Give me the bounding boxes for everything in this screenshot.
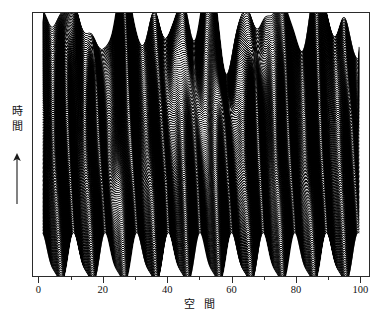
x-tick-minor bbox=[71, 277, 72, 280]
y-axis: 時 間 bbox=[4, 12, 30, 277]
x-tick-major bbox=[232, 277, 233, 283]
y-axis-title-char-2: 間 bbox=[4, 119, 30, 134]
x-tick-minor bbox=[135, 277, 136, 280]
x-tick-minor bbox=[264, 277, 265, 280]
y-axis-up-arrow-icon bbox=[4, 152, 30, 204]
waterfall-figure: 020406080100 空 間 時 間 bbox=[0, 0, 386, 315]
x-axis-title: 空 間 bbox=[32, 295, 370, 311]
x-tick-minor bbox=[328, 277, 329, 280]
y-axis-title: 時 間 bbox=[4, 104, 30, 134]
x-tick-major bbox=[103, 277, 104, 283]
x-tick-minor bbox=[199, 277, 200, 280]
x-tick-major bbox=[296, 277, 297, 283]
x-tick-major bbox=[167, 277, 168, 283]
waterfall-plot-canvas bbox=[33, 13, 369, 276]
y-axis-title-char-1: 時 bbox=[4, 104, 30, 119]
x-tick-major bbox=[360, 277, 361, 283]
plot-area bbox=[32, 12, 370, 277]
x-tick-major bbox=[38, 277, 39, 283]
